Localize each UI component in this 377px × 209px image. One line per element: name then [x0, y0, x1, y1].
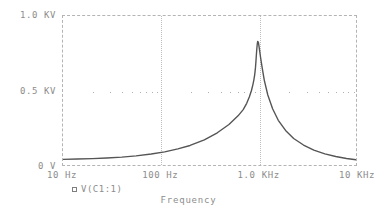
x-axis-tick-label-1khz: 1.0 KHz — [238, 170, 280, 180]
x-axis-tick-label-100hz: 100 Hz — [142, 170, 178, 180]
frequency-response-chart: 1.0 KV 0.5 KV 0 V 10 Hz 100 Hz 1.0 KHz 1… — [0, 0, 377, 209]
x-axis-tick-label-10hz: 10 Hz — [47, 170, 77, 180]
open-square-icon — [72, 187, 77, 192]
x-axis-title: Frequency — [0, 195, 377, 205]
legend-item-label: V(C1:1) — [81, 184, 122, 194]
x-axis-tick-label-10khz: 10 KHz — [339, 170, 375, 180]
chart-legend[interactable]: V(C1:1) — [72, 184, 122, 194]
y-axis-tick-label-mid: 0.5 KV — [0, 86, 56, 96]
y-axis-tick-label-top: 1.0 KV — [0, 10, 56, 20]
plot-area — [62, 15, 357, 166]
trace-v-c1-1 — [63, 16, 356, 165]
